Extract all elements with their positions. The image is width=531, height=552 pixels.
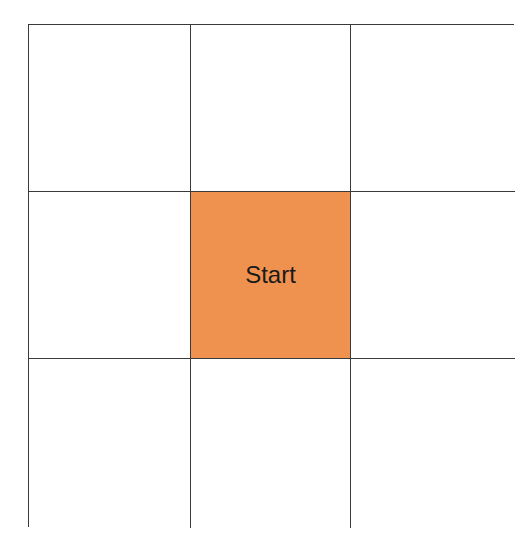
start-cell: Start [191,192,351,359]
start-label: Start [245,261,296,289]
grid-cell-r3-c1 [29,359,191,528]
grid-cell-r3-c2 [191,359,351,528]
grid-cell-r1-c3 [351,25,515,192]
grid-cell-r2-c3 [351,192,515,359]
grid-cell-r2-c1 [29,192,191,359]
grid-cell-r1-c2 [191,25,351,192]
grid-cell-r1-c1 [29,25,191,192]
three-by-three-grid: Start [28,24,514,527]
grid-cell-r3-c3 [351,359,515,528]
